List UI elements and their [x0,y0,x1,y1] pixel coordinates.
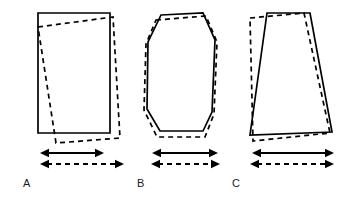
panel-c-solid-shape [250,13,332,135]
panel-c-solid-arrow [252,149,334,157]
panel-c: C [232,13,334,189]
panel-b-label: B [137,177,144,189]
panel-c-dashed-arrow-head-right [325,160,334,168]
figure-root: A B [0,0,352,198]
figure-canvas: A B [0,0,352,198]
panel-b-dashed-shape [144,16,217,137]
panel-c-dashed-arrow-head-left [250,160,259,168]
panel-b-dashed-arrow-head-left [151,160,160,168]
panel-a-dashed-arrow-head-right [115,160,124,168]
panel-a: A [23,13,124,189]
panel-a-solid-arrow-head-left [40,149,49,157]
panel-a-dashed-arrow [40,160,124,168]
panel-b-solid-arrow-head-left [152,149,161,157]
panel-b-solid-shape [147,13,215,131]
panel-b-solid-arrow-head-right [209,149,218,157]
panel-c-dashed-shape [250,13,330,141]
panel-a-label: A [23,177,31,189]
panel-a-solid-arrow [40,149,104,157]
panel-a-dashed-shape [38,17,120,143]
panel-b: B [137,13,220,189]
panel-b-dashed-arrow-head-right [211,160,220,168]
panel-c-label: C [232,177,240,189]
panel-c-solid-arrow-head-right [325,149,334,157]
panel-b-dashed-arrow [151,160,220,168]
panel-a-solid-shape [38,13,110,133]
panel-a-dashed-arrow-head-left [40,160,49,168]
panel-a-solid-arrow-head-right [95,149,104,157]
panel-b-solid-arrow [152,149,218,157]
panel-c-solid-arrow-head-left [252,149,261,157]
panel-c-dashed-arrow [250,160,334,168]
